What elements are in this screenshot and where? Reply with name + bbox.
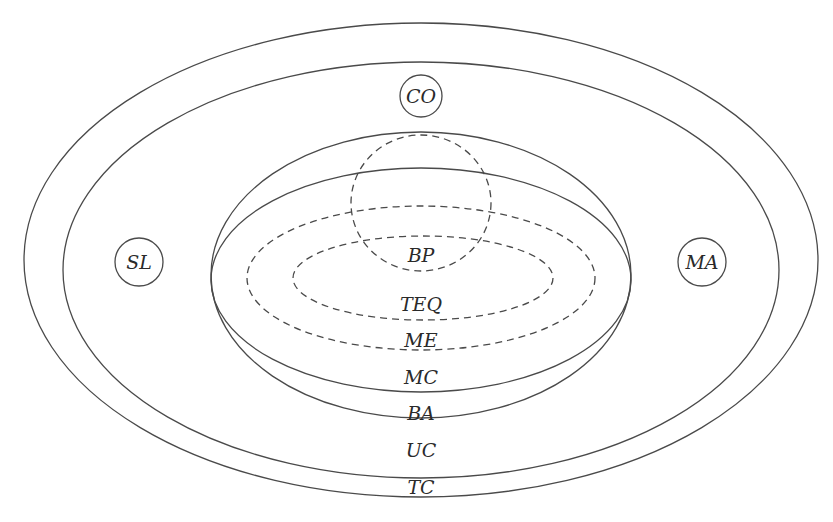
tc-label: TC xyxy=(407,476,435,498)
ma-label: MA xyxy=(684,251,718,273)
teq-label: TEQ xyxy=(400,293,442,315)
sl-label: SL xyxy=(126,251,152,273)
set-inclusion-diagram: CO SL MA BP TEQ ME MC BA UC TC xyxy=(0,0,833,522)
co-label: CO xyxy=(406,85,437,107)
point-ma: MA xyxy=(678,238,726,286)
uc-label: UC xyxy=(406,439,437,461)
point-sl: SL xyxy=(115,238,163,286)
ba-label: BA xyxy=(406,402,435,424)
bp-label: BP xyxy=(407,244,436,266)
set-mc-boundary xyxy=(211,168,631,392)
me-label: ME xyxy=(403,329,437,351)
point-co: CO xyxy=(400,75,442,117)
mc-label: MC xyxy=(403,366,438,388)
